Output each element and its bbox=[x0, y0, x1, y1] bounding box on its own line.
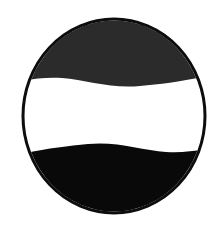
emblem-canvas bbox=[0, 0, 221, 226]
circular-wave-emblem-svg bbox=[0, 0, 221, 226]
